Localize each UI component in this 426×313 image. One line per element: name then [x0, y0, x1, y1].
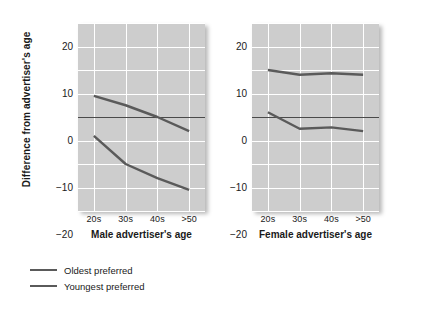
gridline-horizontal [252, 211, 379, 212]
series-line [268, 112, 363, 131]
y-axis-title: Difference from advertiser's age [21, 10, 32, 210]
legend-line-swatch [30, 285, 57, 287]
y-axis-tick-label: −20 [230, 229, 247, 240]
y-axis-tick-label: −20 [56, 229, 73, 240]
y-axis-tick-label: 10 [62, 88, 73, 99]
x-axis-tick-label: 20s [87, 214, 102, 224]
x-axis-tick-label: 30s [118, 214, 133, 224]
y-axis-tick-label: −10 [56, 182, 73, 193]
plot-area-female [252, 23, 379, 211]
x-axis-ticks-female: 20s30s40s>50 [252, 214, 379, 228]
series-line [94, 96, 189, 131]
chart-figure: Difference from advertiser's age 20s30s4… [0, 0, 426, 313]
panel-male: 20s30s40s>50 Male advertiser's age 20100… [78, 23, 205, 211]
x-axis-tick-label: 20s [261, 214, 276, 224]
legend-item-label: Youngest preferred [64, 281, 144, 292]
x-axis-tick-label: 30s [292, 214, 307, 224]
legend-line-swatch [30, 269, 57, 271]
x-axis-tick-label: 40s [324, 214, 339, 224]
chart-legend: Oldest preferredYoungest preferred [30, 262, 250, 294]
x-axis-tick-label: 40s [150, 214, 165, 224]
x-axis-title-female: Female advertiser's age [232, 229, 399, 240]
y-axis-tick-label: 0 [241, 135, 247, 146]
x-axis-tick-label: >50 [181, 214, 196, 224]
series-line [268, 70, 363, 75]
y-axis-tick-label: 0 [67, 135, 73, 146]
x-axis-title-male: Male advertiser's age [58, 229, 225, 240]
series-line [94, 136, 189, 190]
legend-item: Oldest preferred [30, 262, 250, 278]
y-axis-tick-label: −10 [230, 182, 247, 193]
gridline-horizontal [78, 211, 205, 212]
y-axis-tick-label: 10 [236, 88, 247, 99]
series-lines-female [252, 23, 379, 211]
x-axis-ticks-male: 20s30s40s>50 [78, 214, 205, 228]
legend-item: Youngest preferred [30, 278, 250, 294]
series-lines-male [78, 23, 205, 211]
x-axis-tick-label: >50 [355, 214, 370, 224]
panel-female: 20s30s40s>50 Female advertiser's age 201… [252, 23, 379, 211]
y-axis-tick-label: 20 [236, 41, 247, 52]
legend-item-label: Oldest preferred [64, 265, 133, 276]
y-axis-tick-label: 20 [62, 41, 73, 52]
plot-area-male [78, 23, 205, 211]
